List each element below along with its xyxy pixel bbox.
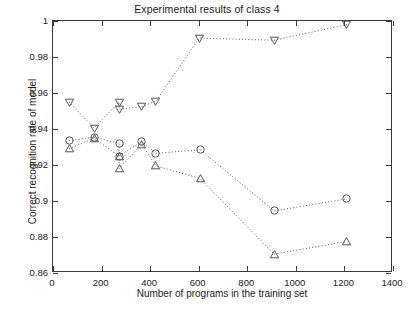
- x-tick-mark: [247, 266, 248, 271]
- y-tick-label: 0.96: [2, 87, 48, 98]
- x-tick-mark: [199, 21, 200, 26]
- x-tick-mark: [296, 21, 297, 26]
- y-tick-mark: [386, 201, 391, 202]
- y-tick-mark: [53, 93, 58, 94]
- x-tick-mark: [344, 266, 345, 271]
- x-tick-mark: [53, 266, 54, 271]
- y-tick-label: 1: [2, 15, 48, 26]
- x-tick-mark: [150, 266, 151, 271]
- y-tick-mark: [386, 165, 391, 166]
- x-tick-mark: [199, 266, 200, 271]
- y-tick-mark: [53, 237, 58, 238]
- x-tick-mark: [393, 21, 394, 26]
- series-line: [69, 25, 347, 129]
- series-line: [69, 138, 347, 254]
- x-tick-mark: [102, 21, 103, 26]
- y-tick-label: 0.94: [2, 123, 48, 134]
- y-tick-mark: [386, 129, 391, 130]
- y-tick-label: 0.88: [2, 231, 48, 242]
- x-tick-mark: [102, 266, 103, 271]
- x-tick-label: 600: [178, 277, 218, 288]
- x-tick-label: 200: [81, 277, 121, 288]
- x-tick-label: 1000: [275, 277, 315, 288]
- y-tick-label: 0.9: [2, 195, 48, 206]
- y-tick-mark: [386, 21, 391, 22]
- x-tick-mark: [150, 21, 151, 26]
- y-tick-label: 0.92: [2, 159, 48, 170]
- y-tick-mark: [386, 93, 391, 94]
- x-axis-title: Number of programs in the training set: [52, 288, 392, 299]
- y-tick-mark: [53, 201, 58, 202]
- x-tick-mark: [247, 21, 248, 26]
- y-tick-mark: [53, 165, 58, 166]
- y-tick-mark: [386, 273, 391, 274]
- y-tick-mark: [53, 57, 58, 58]
- chart-root: Experimental results of class 4 0.860.88…: [0, 0, 414, 319]
- y-tick-label: 0.98: [2, 51, 48, 62]
- plot-area: [52, 20, 392, 272]
- x-tick-mark: [53, 21, 54, 26]
- x-tick-mark: [393, 266, 394, 271]
- y-axis-title: Correct recognition rate of model: [27, 32, 38, 272]
- x-tick-label: 1400: [372, 277, 412, 288]
- y-tick-mark: [386, 57, 391, 58]
- y-tick-label: 0.86: [2, 267, 48, 278]
- y-tick-mark: [386, 237, 391, 238]
- y-tick-mark: [53, 129, 58, 130]
- y-tick-mark: [53, 273, 58, 274]
- x-tick-mark: [296, 266, 297, 271]
- x-tick-mark: [344, 21, 345, 26]
- series-connector-lines: [53, 21, 393, 273]
- chart-title: Experimental results of class 4: [0, 3, 414, 15]
- series-line: [69, 137, 347, 211]
- x-tick-label: 1200: [323, 277, 363, 288]
- x-tick-label: 800: [226, 277, 266, 288]
- x-tick-label: 0: [32, 277, 72, 288]
- x-tick-label: 400: [129, 277, 169, 288]
